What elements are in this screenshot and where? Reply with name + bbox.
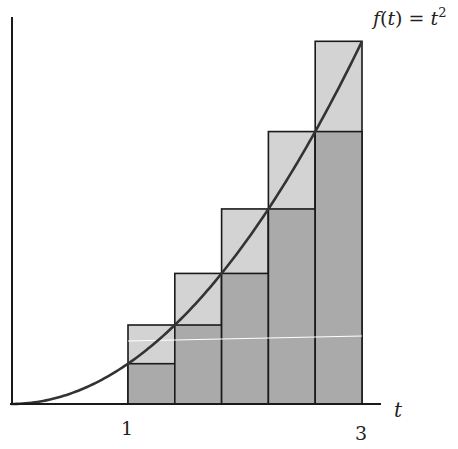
left-rectangle — [268, 209, 315, 404]
x-tick-label-1: 1 — [121, 417, 133, 439]
riemann-sum-figure: f(t) = t2 t 1 3 — [0, 0, 458, 449]
left-rectangle — [175, 325, 222, 404]
x-tick-label-3: 3 — [355, 422, 367, 444]
x-axis-label: t — [394, 398, 403, 422]
left-rectangle — [315, 132, 362, 404]
function-label: f(t) = t2 — [371, 5, 446, 29]
left-rectangle — [128, 364, 175, 404]
